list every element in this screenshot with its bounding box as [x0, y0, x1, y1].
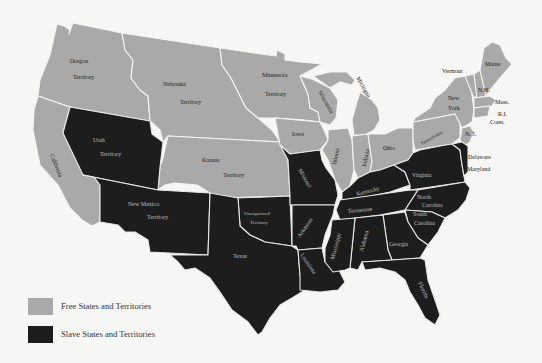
label-kansas-territory: Territory	[223, 172, 244, 178]
label-utah-territory: Territory	[100, 151, 121, 157]
label-south-carolina: Carolina	[414, 220, 435, 226]
label-nh: N.H.	[478, 87, 490, 93]
label-minnesota: Minnesota	[262, 72, 288, 78]
label-north: North	[417, 194, 431, 200]
region-kansas-territory	[158, 136, 290, 198]
label-north-carolina: Carolina	[422, 202, 443, 208]
label-nebraska: Nebraska	[163, 81, 186, 87]
label-new-mexico-territory: Territory	[147, 214, 168, 220]
label-ohio: Ohio	[383, 145, 395, 151]
label-york: York	[448, 105, 460, 111]
label-utah: Utah	[93, 137, 105, 143]
label-kansas: Kansas	[202, 157, 220, 163]
label-maine: Maine	[485, 61, 501, 67]
label-vermont: Vermont	[442, 68, 463, 74]
label-conn: Conn.	[490, 119, 505, 125]
legend-label-slave: Slave States and Territories	[61, 329, 155, 339]
label-maryland: Maryland	[467, 166, 490, 172]
region-connecticut-ri	[474, 106, 490, 118]
label-oregon-territory: Territory	[73, 74, 94, 80]
label-virginia: Virginia	[412, 172, 432, 178]
label-south: South	[413, 211, 427, 217]
label-nebraska-territory: Territory	[180, 99, 201, 105]
label-ri: R.I.	[498, 111, 508, 117]
legend-item-free: Free States and Territories	[28, 297, 248, 315]
region-mississippi	[325, 218, 355, 272]
label-texas: Texas	[233, 253, 248, 259]
label-unorganized: Unorganized	[244, 211, 270, 216]
label-nj: N. J.	[465, 131, 477, 137]
label-unorganized-territory: Territory	[250, 220, 268, 225]
label-new: New	[448, 95, 460, 101]
legend-label-free: Free States and Territories	[61, 301, 151, 311]
label-oregon: Oregon	[70, 58, 88, 64]
label-mass: Mass.	[495, 99, 510, 105]
label-georgia: Georgia	[389, 241, 409, 247]
label-iowa: Iowa	[292, 131, 304, 137]
label-minnesota-territory: Territory	[265, 91, 286, 97]
legend-swatch-slave	[28, 326, 53, 343]
label-new-mexico: New Mexico	[128, 201, 159, 207]
label-delaware: Delaware	[468, 154, 491, 160]
legend-swatch-free	[28, 298, 53, 315]
legend-item-slave: Slave States and Territories	[28, 325, 248, 343]
